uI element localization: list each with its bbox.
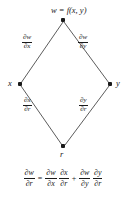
edge-y-r bbox=[65, 86, 109, 145]
node-dot-w bbox=[61, 18, 65, 22]
equals-sign: = bbox=[35, 174, 46, 183]
equation-term2-factor1: ∂w ∂y bbox=[79, 169, 90, 188]
fraction-dw-dx: ∂w ∂x bbox=[22, 34, 32, 51]
fraction-denominator: ∂r bbox=[24, 179, 35, 188]
edge-label-dw-dy: ∂w ∂y bbox=[78, 34, 88, 51]
node-label-y: y bbox=[116, 79, 120, 88]
fraction-numerator: ∂w bbox=[24, 169, 35, 179]
chain-rule-equation: ∂w ∂r = ∂w ∂x ∂x ∂r + ∂w ∂y ∂y ∂r bbox=[0, 160, 126, 197]
node-label-x: x bbox=[8, 79, 12, 88]
equation-term1-factor2: ∂x ∂r bbox=[59, 169, 69, 188]
fraction-denominator: ∂r bbox=[23, 106, 32, 114]
node-dot-y bbox=[108, 82, 112, 86]
node-dot-r bbox=[61, 144, 65, 148]
edge-label-dy-dr: ∂y ∂r bbox=[79, 97, 88, 114]
fraction-numerator: ∂y bbox=[93, 169, 103, 179]
dependency-tree: w = f(x, y) x y r ∂w ∂x ∂w ∂y ∂x bbox=[0, 0, 126, 160]
fraction-denominator: ∂r bbox=[93, 179, 103, 188]
equation-term1-factor1: ∂w ∂x bbox=[45, 169, 56, 188]
plus-sign: + bbox=[69, 174, 80, 183]
edge-label-dw-dx: ∂w ∂x bbox=[22, 34, 32, 51]
tree-edges-svg bbox=[0, 0, 126, 160]
equation-lhs-fraction: ∂w ∂r bbox=[24, 169, 35, 188]
fraction-denominator: ∂x bbox=[45, 179, 56, 188]
fraction-dx-dr: ∂x ∂r bbox=[23, 97, 32, 114]
edge-label-dx-dr: ∂x ∂r bbox=[23, 97, 32, 114]
edge-x-r bbox=[21, 86, 62, 145]
fraction-denominator: ∂r bbox=[59, 179, 69, 188]
fraction-numerator: ∂w bbox=[79, 169, 90, 179]
fraction-dw-dy: ∂w ∂y bbox=[78, 34, 88, 51]
node-label-w-text: w = f(x, y) bbox=[51, 5, 86, 15]
fraction-dy-dr: ∂y ∂r bbox=[79, 97, 88, 114]
fraction-denominator: ∂y bbox=[78, 43, 88, 51]
fraction-numerator: ∂w bbox=[45, 169, 56, 179]
chain-rule-figure: w = f(x, y) x y r ∂w ∂x ∂w ∂y ∂x bbox=[0, 0, 126, 197]
edge-w-x bbox=[21, 22, 63, 83]
equation-term2-factor2: ∂y ∂r bbox=[93, 169, 103, 188]
fraction-denominator: ∂x bbox=[22, 43, 32, 51]
fraction-denominator: ∂r bbox=[79, 106, 88, 114]
node-label-r: r bbox=[60, 150, 63, 159]
fraction-numerator: ∂x bbox=[59, 169, 69, 179]
node-label-w: w = f(x, y) bbox=[51, 5, 86, 15]
edge-w-y bbox=[64, 22, 109, 83]
node-dot-x bbox=[18, 82, 22, 86]
fraction-denominator: ∂y bbox=[79, 179, 90, 188]
